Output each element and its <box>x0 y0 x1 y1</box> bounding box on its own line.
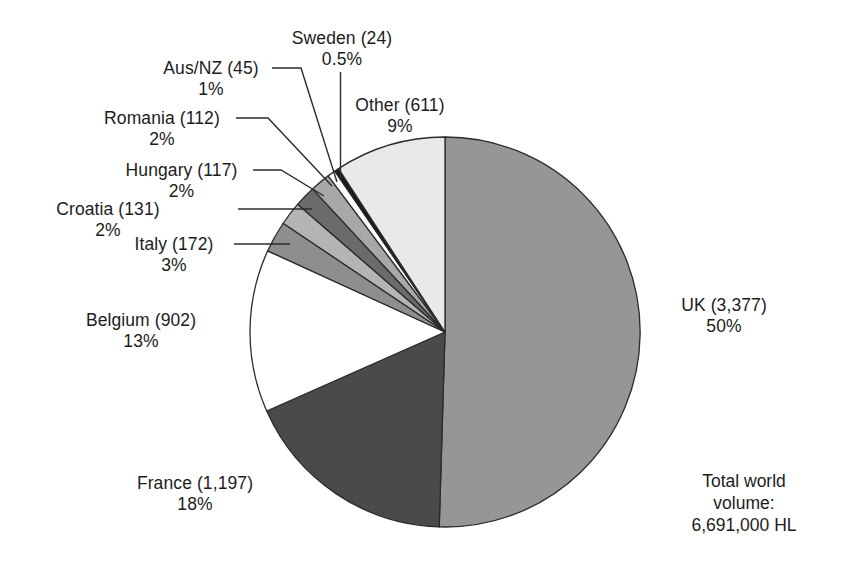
label-other-name: Other (611) <box>330 95 470 116</box>
label-uk-percent: 50% <box>662 316 786 337</box>
label-sweden-name: Sweden (24) <box>268 28 416 49</box>
label-france-percent: 18% <box>110 494 280 515</box>
label-belgium-name: Belgium (902) <box>56 310 226 331</box>
label-sweden: Sweden (24) 0.5% <box>268 28 416 70</box>
label-hungary: Hungary (117) 2% <box>110 160 253 202</box>
total-line-2: volume: <box>654 492 834 514</box>
label-italy-percent: 3% <box>122 255 226 276</box>
total-volume-annotation: Total world volume: 6,691,000 HL <box>654 470 834 536</box>
pie-chart: Sweden (24) 0.5% Aus/NZ (45) 1% Other (6… <box>0 0 864 567</box>
label-romania-name: Romania (112) <box>88 108 236 129</box>
pie-slices-group <box>250 137 640 527</box>
label-other-percent: 9% <box>330 116 470 137</box>
leader-line-ausnz <box>272 68 337 182</box>
pie-slice-uk[interactable] <box>439 137 640 527</box>
label-ausnz: Aus/NZ (45) 1% <box>150 58 272 100</box>
label-italy: Italy (172) 3% <box>122 234 226 276</box>
label-other: Other (611) 9% <box>330 95 470 137</box>
label-romania-percent: 2% <box>88 129 236 150</box>
label-uk-name: UK (3,377) <box>662 295 786 316</box>
label-ausnz-percent: 1% <box>150 79 272 100</box>
label-france-name: France (1,197) <box>110 473 280 494</box>
label-italy-name: Italy (172) <box>122 234 226 255</box>
label-france: France (1,197) 18% <box>110 473 280 515</box>
label-belgium-percent: 13% <box>56 331 226 352</box>
label-uk: UK (3,377) 50% <box>662 295 786 337</box>
label-croatia-name: Croatia (131) <box>38 199 178 220</box>
label-romania: Romania (112) 2% <box>88 108 236 150</box>
label-sweden-percent: 0.5% <box>268 49 416 70</box>
total-line-1: Total world <box>654 470 834 492</box>
label-hungary-name: Hungary (117) <box>110 160 253 181</box>
label-ausnz-name: Aus/NZ (45) <box>150 58 272 79</box>
label-belgium: Belgium (902) 13% <box>56 310 226 352</box>
total-line-3: 6,691,000 HL <box>654 514 834 536</box>
